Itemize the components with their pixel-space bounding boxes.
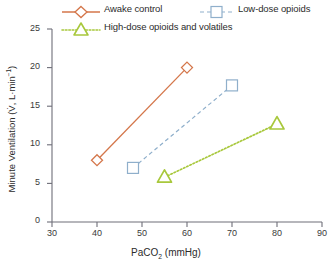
legend-marker-triangle-icon xyxy=(74,23,88,35)
legend-sample-low-dose-opioids xyxy=(200,7,234,18)
data-point-marker xyxy=(270,117,284,129)
chart-figure: Awake control Low-dose opioids High-dose… xyxy=(0,0,332,269)
series-line-low-dose-opioids xyxy=(133,85,232,167)
x-axis-ticks xyxy=(52,222,322,227)
series-low-dose-opioids xyxy=(128,80,238,173)
legend-sample-awake-control xyxy=(62,7,100,18)
legend-marker-diamond-icon xyxy=(75,7,87,18)
data-point-marker xyxy=(128,162,139,173)
data-point-marker xyxy=(227,80,238,91)
plot-canvas xyxy=(0,0,332,269)
data-point-marker xyxy=(158,170,172,182)
series-awake-control xyxy=(92,62,193,166)
y-axis-ticks xyxy=(47,29,52,222)
series-line-high-dose-opioids xyxy=(165,124,278,177)
series-line-awake-control xyxy=(97,68,187,161)
legend-marker-square-icon xyxy=(211,7,222,18)
series-high-dose-opioids-and-volatiles xyxy=(158,117,285,183)
legend-sample-high-dose-opioids xyxy=(62,23,100,35)
